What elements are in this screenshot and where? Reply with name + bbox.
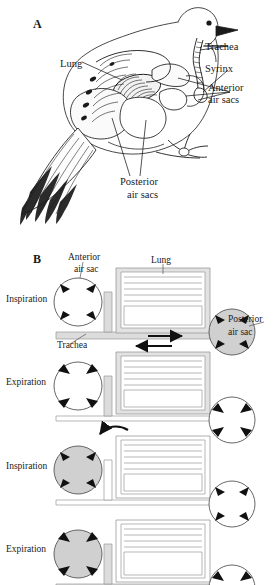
panel-a-illustration [0, 0, 279, 240]
panel-b-label-posterior-air-sac-line1: Posterior [228, 315, 262, 325]
panel-b-label-trachea: Trachea [57, 341, 87, 351]
panel-a-letter: A [33, 18, 42, 31]
stage-2-group [54, 346, 255, 443]
figure-bird-respiration: A Lung Trachea Syrinx Anterior air sacs … [0, 0, 279, 585]
panel-b-label-anterior-air-sac-line1: Anterior [68, 253, 100, 263]
panel-a-label-lung: Lung [60, 58, 82, 69]
panel-a-label-anterior-air-sacs-line1: Anterior [208, 82, 244, 93]
panel-a-label-syrinx: Syrinx [205, 63, 233, 74]
panel-a-label-posterior-air-sacs-line1: Posterior [120, 176, 158, 187]
stage-2-label: Expiration [6, 378, 46, 388]
stage-1-label: Inspiration [6, 295, 47, 305]
stage-4-label: Expiration [6, 545, 46, 555]
panel-b-label-lung: Lung [151, 256, 171, 266]
panel-b-illustration [0, 240, 279, 585]
panel-b-letter: B [33, 253, 41, 266]
stage-4-group [54, 520, 255, 585]
panel-a-label-trachea: Trachea [205, 41, 238, 52]
panel-b-label-anterior-air-sac-line2: air sac [74, 265, 99, 275]
stage-3-label: Inspiration [6, 462, 47, 472]
panel-a-label-posterior-air-sacs-line2: air sacs [127, 189, 158, 200]
panel-b-label-posterior-air-sac-line2: air sac [228, 328, 253, 338]
panel-a-label-anterior-air-sacs-line2: air sacs [208, 94, 239, 105]
